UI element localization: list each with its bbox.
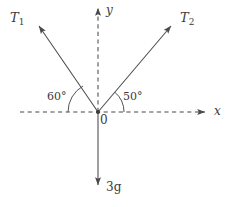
tension-2-symbol: T [180,10,189,25]
tension-2-subscript: 2 [189,17,195,27]
vector-diagram: T1 T2 y x 60° 50° 0 3g [0,0,236,207]
diagram-canvas [0,0,236,207]
x-axis-label: x [214,104,221,118]
angle-50-label: 50° [123,90,143,103]
tension-1-label: T1 [10,10,25,27]
weight-unit: g [114,180,122,194]
tension-1-subscript: 1 [19,17,25,27]
weight-label: 3g [106,180,121,194]
angle-60-arc [68,86,83,112]
tension-2-label: T2 [180,10,195,27]
angle-60-label: 60° [47,90,67,103]
y-axis-label: y [106,3,113,17]
tension-1-symbol: T [10,10,19,25]
weight-magnitude: 3 [106,180,114,194]
origin-label: 0 [100,113,108,127]
